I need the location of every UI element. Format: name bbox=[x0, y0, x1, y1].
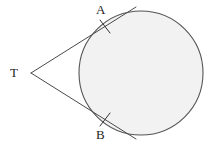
label-tangent-point-b: B bbox=[96, 128, 105, 141]
label-tangent-point-a: A bbox=[96, 3, 105, 16]
geometry-canvas bbox=[0, 0, 211, 147]
label-external-point-t: T bbox=[10, 66, 18, 79]
geometry-figure: T A B bbox=[0, 0, 211, 147]
circle-shape bbox=[79, 11, 203, 135]
